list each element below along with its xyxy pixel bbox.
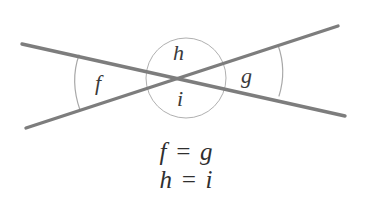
vertical-angle-circle — [146, 38, 226, 118]
geometry-figure: f g h i f = g h = i — [0, 0, 373, 214]
equation-line: f = g — [0, 138, 373, 166]
angle-label-i: i — [177, 88, 183, 110]
equation-line: h = i — [0, 166, 373, 194]
angle-label-h: h — [173, 42, 184, 64]
angle-label-f: f — [95, 72, 101, 94]
arc-g-icon — [278, 45, 283, 96]
equation-block: f = g h = i — [0, 138, 373, 194]
arc-f-icon — [75, 55, 80, 110]
angle-label-g: g — [241, 65, 252, 87]
